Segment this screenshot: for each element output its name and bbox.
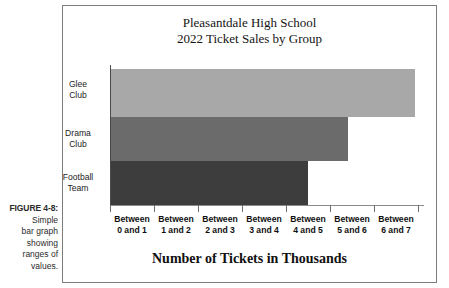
x-tick-1 <box>154 205 155 212</box>
plot-area: Glee Club Drama Club Football Team Bet <box>110 65 424 205</box>
figure-caption: FIGURE 4-8: Simple bar graph showing ran… <box>0 203 58 273</box>
x-tick-label-3-line-1: Between <box>241 214 287 225</box>
x-tick-label-2-line-1: Between <box>197 214 243 225</box>
x-tick-label-5-line-2: 5 and 6 <box>329 225 375 236</box>
chart-title: Pleasantdale High School 2022 Ticket Sal… <box>63 15 436 46</box>
x-axis-title: Number of Tickets in Thousands <box>63 251 436 267</box>
x-tick-3 <box>242 205 243 212</box>
figure-page: FIGURE 4-8: Simple bar graph showing ran… <box>0 0 449 288</box>
x-tick-2 <box>198 205 199 212</box>
x-tick-label-1: Between 1 and 2 <box>153 214 199 235</box>
x-tick-label-6-line-2: 6 and 7 <box>373 225 419 236</box>
chart-title-line-1: Pleasantdale High School <box>63 15 436 31</box>
x-tick-label-4-line-2: 4 and 5 <box>285 225 331 236</box>
x-tick-7 <box>418 205 419 212</box>
x-tick-label-5: Between 5 and 6 <box>329 214 375 235</box>
figure-caption-line-4: ranges of <box>0 249 58 261</box>
x-tick-label-6-line-1: Between <box>373 214 419 225</box>
figure-caption-line-1: Simple <box>0 215 58 227</box>
category-label-football-team-line-2: Team <box>52 183 104 194</box>
bar-football-team <box>111 161 308 205</box>
category-label-drama-club-line-1: Drama <box>52 128 104 139</box>
x-tick-label-5-line-1: Between <box>329 214 375 225</box>
x-tick-4 <box>286 205 287 212</box>
x-tick-label-1-line-1: Between <box>153 214 199 225</box>
x-axis-line <box>110 205 424 206</box>
category-label-glee-club: Glee Club <box>52 79 104 100</box>
bar-glee-club <box>111 69 415 117</box>
x-tick-0 <box>110 205 111 212</box>
figure-caption-line-3: showing <box>0 238 58 250</box>
x-tick-label-0-line-1: Between <box>109 214 155 225</box>
figure-frame: Pleasantdale High School 2022 Ticket Sal… <box>62 5 437 283</box>
x-tick-5 <box>330 205 331 212</box>
figure-caption-label: FIGURE 4-8: <box>0 203 58 215</box>
figure-caption-line-5: values. <box>0 261 58 273</box>
chart-title-line-2: 2022 Ticket Sales by Group <box>63 31 436 47</box>
x-tick-label-3: Between 3 and 4 <box>241 214 287 235</box>
category-label-glee-club-line-1: Glee <box>52 79 104 90</box>
category-label-football-team: Football Team <box>52 172 104 193</box>
category-label-football-team-line-1: Football <box>52 172 104 183</box>
category-label-drama-club: Drama Club <box>52 128 104 149</box>
x-tick-label-2-line-2: 2 and 3 <box>197 225 243 236</box>
x-tick-label-1-line-2: 1 and 2 <box>153 225 199 236</box>
x-tick-label-2: Between 2 and 3 <box>197 214 243 235</box>
x-tick-label-3-line-2: 3 and 4 <box>241 225 287 236</box>
x-tick-label-0: Between 0 and 1 <box>109 214 155 235</box>
x-tick-6 <box>374 205 375 212</box>
bar-drama-club <box>111 117 348 161</box>
x-tick-label-6: Between 6 and 7 <box>373 214 419 235</box>
x-tick-label-4-line-1: Between <box>285 214 331 225</box>
figure-caption-line-2: bar graph <box>0 226 58 238</box>
x-tick-label-0-line-2: 0 and 1 <box>109 225 155 236</box>
x-tick-label-4: Between 4 and 5 <box>285 214 331 235</box>
category-label-glee-club-line-2: Club <box>52 90 104 101</box>
category-label-drama-club-line-2: Club <box>52 139 104 150</box>
